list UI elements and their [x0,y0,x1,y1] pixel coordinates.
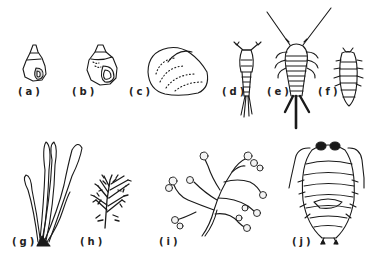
snail-shell-a-icon [23,45,46,81]
panel-label-g: (g) [12,236,37,247]
panel-label-h: (h) [80,236,105,247]
panel-label-f: (f) [318,86,341,97]
organism-plate [0,0,373,260]
finger-seaweed-icon [24,142,82,246]
small-isopod-icon [334,48,363,106]
panel-label-b: (b) [72,86,97,97]
crustacean-icon [267,8,331,128]
panel-label-i: (i) [159,236,181,247]
large-isopod-icon [289,142,364,244]
bushy-seaweed-icon [91,175,131,228]
hydroid-colony-icon [166,152,267,236]
copepod-icon [234,42,261,117]
panel-label-j: (j) [292,236,314,247]
panel-label-d: (d) [222,86,247,97]
panel-label-c: (c) [129,86,153,97]
panel-label-e: (e) [267,86,292,97]
clam-shell-icon [148,48,208,96]
snail-shell-b-icon [87,45,117,85]
panel-label-a: (a) [18,86,43,97]
